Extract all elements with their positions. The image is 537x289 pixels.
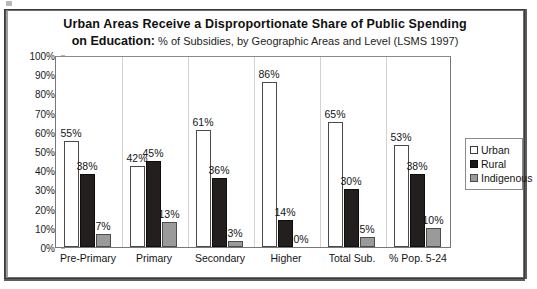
data-label-urban-3: 61% [192,116,213,128]
data-label-rural-6: 38% [406,160,427,172]
legend-item-rural: Rural [470,157,519,171]
y-axis-tick-100: 100% [17,51,55,62]
y-axis-tick-40: 40% [17,166,55,177]
x-axis-label-6: % Pop. 5-24 [389,252,447,264]
data-label-indigenous-6: 10% [422,214,443,226]
data-label-indigenous-1: 7% [95,220,110,232]
y-axis-tick-labels: 100%90%80%70%60%50%40%30%20%10%0% [17,56,55,248]
y-axis-tick-30: 30% [17,185,55,196]
data-label-urban-5: 65% [324,108,345,120]
bar-group-higher: 86%14%0% [254,57,320,247]
bar-group-primary: 42%45%13% [122,57,188,247]
data-label-indigenous-2: 13% [158,208,179,220]
y-axis-tick-50: 50% [17,147,55,158]
bar-rural-3 [212,178,227,247]
bar-group-total-sub: 65%30%5% [320,57,386,247]
scan-artifact-speck [6,1,12,6]
bar-indigenous-3 [228,241,243,247]
bar-rural-4 [278,220,293,247]
legend-swatch-rural-icon [470,160,478,168]
y-axis-tick-20: 20% [17,204,55,215]
legend-swatch-indigenous-icon [470,174,478,182]
data-label-indigenous-3: 3% [227,227,242,239]
bar-urban-1 [64,141,79,247]
data-label-indigenous-5: 5% [359,223,374,235]
y-axis-tick-70: 70% [17,108,55,119]
bar-group-pop-5-24: 53%38%10% [386,57,452,247]
legend-item-urban: Urban [470,143,519,157]
y-axis-tick-10: 10% [17,223,55,234]
x-axis-label-2: Primary [136,252,172,264]
legend-label-rural: Rural [481,158,506,170]
x-axis-label-1: Pre-Primary [60,252,116,264]
bar-urban-4 [262,82,277,247]
plot-area: 55%38%7%42%45%13%61%36%3%86%14%0%65%30%5… [55,56,451,248]
bar-rural-5 [344,189,359,247]
bar-indigenous-2 [162,222,177,247]
bar-urban-2 [130,166,145,247]
legend-label-indigenous: Indigenous [481,172,532,184]
data-label-indigenous-4: 0% [293,233,308,245]
chart-figure-frame: Urban Areas Receive a Disproportionate S… [4,9,525,279]
x-axis-category-labels: Pre-PrimaryPrimarySecondaryHigherTotal S… [55,252,451,272]
bar-indigenous-5 [360,237,375,247]
bar-urban-3 [196,130,211,247]
data-label-urban-1: 55% [60,127,81,139]
y-axis-tick-0: 0% [17,243,55,254]
bar-group-pre-primary: 55%38%7% [56,57,122,247]
data-label-rural-4: 14% [274,206,295,218]
data-label-urban-6: 53% [390,131,411,143]
bar-indigenous-1 [96,234,111,247]
legend-item-indigenous: Indigenous [470,171,519,185]
data-label-rural-1: 38% [76,160,97,172]
legend-swatch-urban-icon [470,146,478,154]
x-axis-label-3: Secondary [195,252,245,264]
legend-label-urban: Urban [481,144,510,156]
plot-wrapper: 100%90%80%70%60%50%40%30%20%10%0% 55%38%… [5,10,526,280]
y-axis-tick-90: 90% [17,70,55,81]
data-label-rural-2: 45% [142,147,163,159]
bar-rural-6 [410,174,425,247]
data-label-rural-3: 36% [208,164,229,176]
y-axis-tick-60: 60% [17,127,55,138]
data-label-urban-4: 86% [258,68,279,80]
bar-group-secondary: 61%36%3% [188,57,254,247]
y-axis-tick-80: 80% [17,89,55,100]
chart-legend: Urban Rural Indigenous [465,138,523,190]
x-axis-label-4: Higher [271,252,302,264]
bar-indigenous-6 [426,228,441,247]
bar-rural-1 [80,174,95,247]
bar-rural-2 [146,161,161,247]
data-label-rural-5: 30% [340,175,361,187]
x-axis-label-5: Total Sub. [329,252,376,264]
